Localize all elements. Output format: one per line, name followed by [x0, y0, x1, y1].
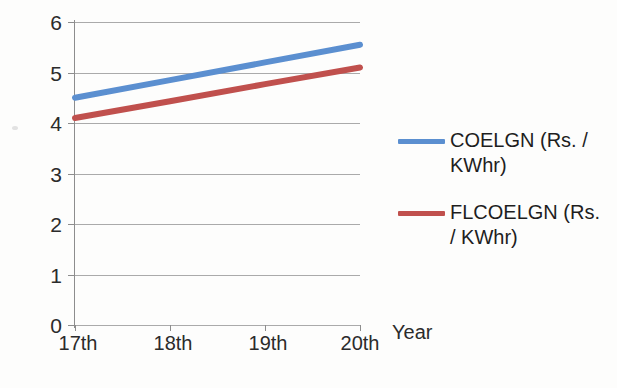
- legend-swatch-icon: [398, 211, 445, 216]
- x-axis-tick-mark: [170, 325, 171, 331]
- y-axis-tick-label: 4: [4, 113, 62, 134]
- chart-legend: COELGN (Rs. / KWhr) FLCOELGN (Rs. / KWhr…: [398, 128, 610, 272]
- legend-item-label: FLCOELGN (Rs. / KWhr): [450, 200, 610, 250]
- y-axis-labels: 6 5 4 3 2 1 0: [0, 0, 62, 388]
- gridline-0: [75, 325, 360, 326]
- y-axis-tick-label: 1: [4, 264, 62, 285]
- y-axis-tick-label: 5: [4, 62, 62, 83]
- x-axis-tick-mark: [360, 325, 361, 331]
- x-axis-tick-label: 18th: [154, 333, 193, 353]
- legend-item-flcoelgn: FLCOELGN (Rs. / KWhr): [398, 200, 610, 250]
- series-lines: [75, 22, 360, 325]
- x-axis-tick-mark: [75, 325, 76, 331]
- plot-area: [75, 22, 360, 325]
- legend-swatch-icon: [398, 139, 445, 144]
- y-axis-tick-label: 6: [4, 12, 62, 33]
- legend-item-label: COELGN (Rs. / KWhr): [450, 128, 610, 178]
- x-axis-tick-label: 19th: [249, 333, 288, 353]
- x-axis-tick-label: 17th: [59, 333, 98, 353]
- y-axis-tick-label: 0: [4, 315, 62, 336]
- line-chart: 6 5 4 3 2 1 0 17th 18th 19th 20th Yea: [0, 0, 617, 388]
- scan-artifact: [12, 126, 18, 130]
- y-axis-tick-label: 2: [4, 214, 62, 235]
- x-axis-tick-label: 20th: [341, 333, 380, 353]
- y-axis-tick-label: 3: [4, 163, 62, 184]
- legend-item-coelgn: COELGN (Rs. / KWhr): [398, 128, 610, 178]
- x-axis-tick-mark: [265, 325, 266, 331]
- x-axis-title: Year: [392, 322, 432, 342]
